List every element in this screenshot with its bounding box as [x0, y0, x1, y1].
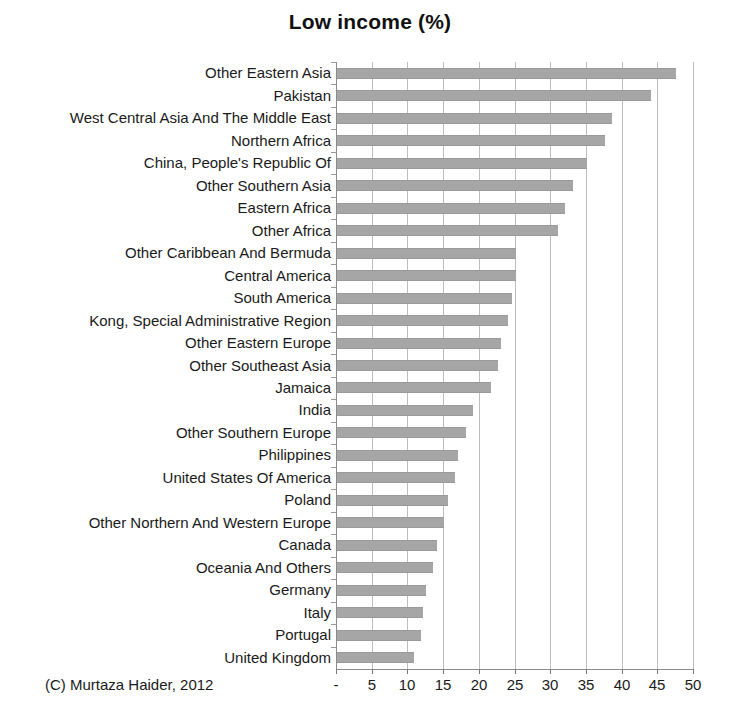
- bar: [337, 562, 433, 573]
- bar: [337, 517, 444, 528]
- y-tick-mark: [331, 219, 336, 220]
- x-tick-label: 10: [387, 676, 427, 693]
- y-tick-mark: [331, 174, 336, 175]
- bar: [337, 293, 512, 304]
- category-label: West Central Asia And The Middle East: [0, 109, 331, 126]
- category-label: Other Southern Asia: [0, 177, 331, 194]
- y-tick-mark: [331, 624, 336, 625]
- category-label: Other Caribbean And Bermuda: [0, 244, 331, 261]
- y-tick-mark: [331, 129, 336, 130]
- y-tick-mark: [331, 489, 336, 490]
- bar: [337, 270, 516, 281]
- x-tick-mark: [515, 669, 516, 674]
- category-label: China, People's Republic Of: [0, 154, 331, 171]
- x-tick-label: 40: [602, 676, 642, 693]
- x-tick-mark: [657, 669, 658, 674]
- x-tick-mark: [336, 669, 337, 674]
- x-tick-label: 15: [423, 676, 463, 693]
- bar: [337, 315, 508, 326]
- bar: [337, 135, 605, 146]
- bar: [337, 495, 448, 506]
- y-tick-mark: [331, 309, 336, 310]
- y-tick-mark: [331, 422, 336, 423]
- category-label: Other Southeast Asia: [0, 357, 331, 374]
- bar: [337, 113, 612, 124]
- bar: [337, 360, 498, 371]
- y-tick-mark: [331, 354, 336, 355]
- x-tick-label: 5: [352, 676, 392, 693]
- bar: [337, 158, 587, 169]
- bar: [337, 90, 651, 101]
- bar: [337, 405, 473, 416]
- y-tick-mark: [331, 332, 336, 333]
- gridline: [586, 62, 587, 669]
- category-label: Eastern Africa: [0, 199, 331, 216]
- y-tick-mark: [331, 84, 336, 85]
- category-label: Italy: [0, 604, 331, 621]
- x-tick-label: -: [316, 676, 356, 693]
- x-tick-mark: [693, 669, 694, 674]
- bar: [337, 203, 565, 214]
- y-tick-mark: [331, 377, 336, 378]
- category-label: Poland: [0, 491, 331, 508]
- y-tick-mark: [331, 444, 336, 445]
- y-tick-mark: [331, 557, 336, 558]
- y-tick-mark: [331, 534, 336, 535]
- category-label: Northern Africa: [0, 132, 331, 149]
- category-label: Jamaica: [0, 379, 331, 396]
- y-tick-mark: [331, 647, 336, 648]
- bar: [337, 225, 558, 236]
- category-label: Canada: [0, 536, 331, 553]
- bar: [337, 607, 423, 618]
- bar: [337, 180, 573, 191]
- category-label: Other Northern And Western Europe: [0, 514, 331, 531]
- x-tick-mark: [622, 669, 623, 674]
- x-tick-mark: [586, 669, 587, 674]
- y-tick-mark: [331, 467, 336, 468]
- bar: [337, 248, 516, 259]
- bar: [337, 427, 466, 438]
- x-tick-label: 30: [530, 676, 570, 693]
- y-tick-mark: [331, 264, 336, 265]
- y-tick-mark: [331, 399, 336, 400]
- bar: [337, 472, 455, 483]
- chart-title: Low income (%): [0, 10, 740, 34]
- y-tick-mark: [331, 579, 336, 580]
- category-label: Kong, Special Administrative Region: [0, 312, 331, 329]
- y-tick-mark: [331, 287, 336, 288]
- y-tick-mark: [331, 512, 336, 513]
- x-tick-mark: [407, 669, 408, 674]
- bar: [337, 540, 437, 551]
- y-tick-mark: [331, 107, 336, 108]
- bar: [337, 382, 491, 393]
- category-label: Germany: [0, 581, 331, 598]
- category-label: Oceania And Others: [0, 559, 331, 576]
- x-tick-mark: [372, 669, 373, 674]
- bar: [337, 450, 458, 461]
- category-label: Other Africa: [0, 222, 331, 239]
- gridline: [657, 62, 658, 669]
- x-tick-mark: [479, 669, 480, 674]
- category-label: Other Eastern Asia: [0, 64, 331, 81]
- x-tick-label: 20: [459, 676, 499, 693]
- category-label: South America: [0, 289, 331, 306]
- bar: [337, 338, 501, 349]
- gridline: [622, 62, 623, 669]
- x-tick-label: 50: [673, 676, 713, 693]
- bar: [337, 652, 414, 663]
- category-label: Portugal: [0, 626, 331, 643]
- x-tick-label: 45: [637, 676, 677, 693]
- category-label: Central America: [0, 267, 331, 284]
- category-label: United States Of America: [0, 469, 331, 486]
- gridline: [515, 62, 516, 669]
- y-tick-mark: [331, 242, 336, 243]
- category-label: United Kingdom: [0, 649, 331, 666]
- gridline: [550, 62, 551, 669]
- category-label: Philippines: [0, 446, 331, 463]
- gridline: [693, 62, 694, 669]
- x-tick-label: 25: [495, 676, 535, 693]
- chart-root: Low income (%) Other Eastern AsiaPakista…: [0, 0, 740, 725]
- category-label: Other Southern Europe: [0, 424, 331, 441]
- credit-note: (C) Murtaza Haider, 2012: [45, 676, 213, 693]
- bar: [337, 630, 421, 641]
